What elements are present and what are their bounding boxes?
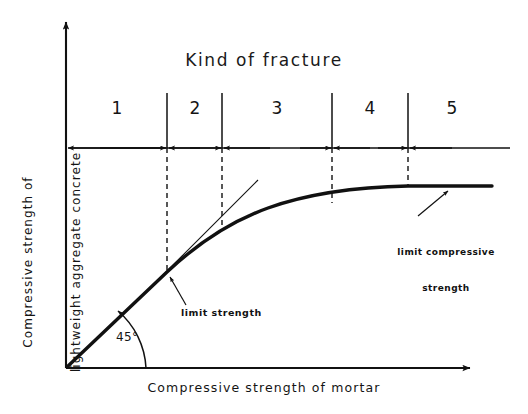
zone-label-4: 4 (350, 98, 390, 118)
zone-label-5: 5 (432, 98, 472, 118)
limit-strength-annotation: limit strength (181, 307, 262, 318)
figure-container: Kind of fracture 1 2 3 4 5 Compressive s… (0, 0, 528, 414)
limit-compressive-leader (418, 191, 448, 216)
y-axis-title-line-2: lightweight aggregate concrete (68, 122, 84, 402)
limit-compressive-line-2: strength (386, 282, 506, 294)
limit-compressive-line-1: limit compressive (386, 246, 506, 258)
zone-label-2: 2 (175, 98, 215, 118)
zone-label-1: 1 (97, 98, 137, 118)
y-axis-title-line-1: Compressive strength of (20, 122, 36, 402)
y-axis-title: Compressive strength of lightweight aggr… (0, 122, 116, 402)
zone-label-3: 3 (257, 98, 297, 118)
zone-separators-dashed (167, 148, 408, 272)
limit-strength-leader (170, 277, 186, 305)
limit-compressive-strength-annotation: limit compressive strength (386, 222, 506, 318)
angle-label-45-degrees: 45° (116, 330, 138, 344)
x-axis-title: Compressive strength of mortar (0, 380, 528, 395)
chart-title: Kind of fracture (0, 50, 528, 70)
